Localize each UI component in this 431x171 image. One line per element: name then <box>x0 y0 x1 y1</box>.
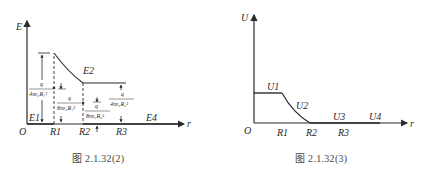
frac4-num: q <box>121 91 124 97</box>
figure-electric-field: E r O R1 R2 R3 E1 E2 E4 q 4πε₀R₁² q <box>0 0 215 171</box>
tick-r3: R3 <box>115 126 127 137</box>
frac2-num: q <box>68 95 71 101</box>
tick-r1: R1 <box>49 126 61 137</box>
potential-diagram: U r O R1 R2 R3 U1 U2 U3 U4 <box>215 0 431 171</box>
y-axis-label: U <box>241 12 249 23</box>
frac3-num: q <box>95 103 98 109</box>
origin-label: O <box>19 126 26 137</box>
label-u3: U3 <box>333 111 345 122</box>
label-e4: E4 <box>145 112 157 123</box>
frac2-den: 8πε₀R₁² <box>57 105 75 111</box>
tick-r2: R2 <box>305 127 317 138</box>
figure-potential: U r O R1 R2 R3 U1 U2 U3 U4 图 2.1.32(3) <box>215 0 431 171</box>
origin-label: O <box>244 125 251 136</box>
x-axis-label: r <box>410 118 414 129</box>
caption-right: 图 2.1.32(3) <box>295 150 347 165</box>
frac3-den: 8πε₀R₂² <box>86 113 104 119</box>
label-u1: U1 <box>267 81 279 92</box>
label-u2: U2 <box>296 100 308 111</box>
tick-r1: R1 <box>276 127 288 138</box>
y-axis-label: E <box>15 21 22 32</box>
tick-r3: R3 <box>337 127 349 138</box>
frac4-den: 4πε₀R₂² <box>110 101 128 107</box>
label-e1: E1 <box>28 112 40 123</box>
label-e2: E2 <box>82 65 94 76</box>
field-curve <box>54 53 83 83</box>
tick-r2: R2 <box>78 126 90 137</box>
frac1-den: 4πε₀R₁² <box>29 91 47 97</box>
caption-left: 图 2.1.32(2) <box>72 150 124 165</box>
frac1-num: q <box>40 81 43 87</box>
x-axis-label: r <box>187 118 191 129</box>
electric-field-diagram: E r O R1 R2 R3 E1 E2 E4 q 4πε₀R₁² q <box>0 0 215 171</box>
label-u4: U4 <box>369 111 381 122</box>
